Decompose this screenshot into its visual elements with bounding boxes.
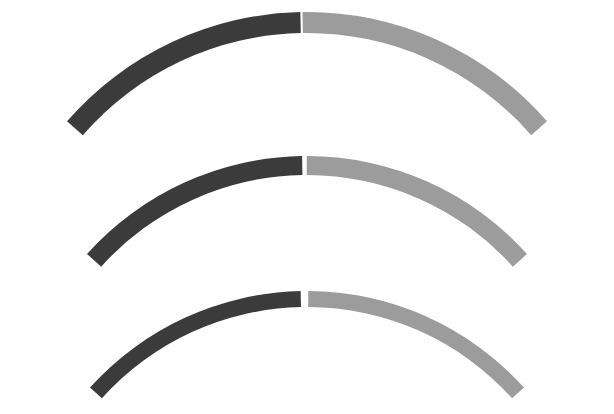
figure-canvas — [0, 0, 614, 414]
chart-background — [0, 0, 614, 414]
arc-band-chart — [0, 0, 614, 414]
